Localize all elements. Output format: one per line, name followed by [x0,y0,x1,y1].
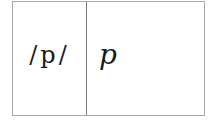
phoneme-table: /p/ p [12,1,205,116]
handwritten-letter: p [99,38,117,71]
phoneme-cell: /p/ [13,2,87,115]
phoneme-text: /p/ [29,41,70,69]
letter-cell: p [87,2,204,115]
